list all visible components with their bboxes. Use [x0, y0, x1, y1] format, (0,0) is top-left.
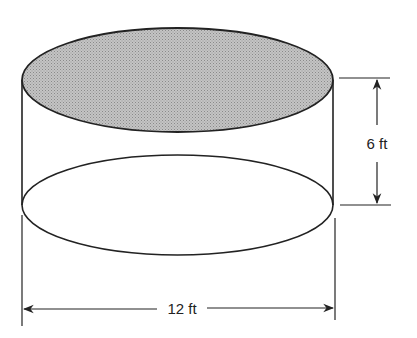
width-label: 12 ft: [167, 300, 197, 317]
height-label: 6 ft: [367, 135, 389, 152]
top-face-ellipse: [22, 28, 333, 132]
cylinder-diagram: 6 ft 12 ft: [0, 0, 417, 338]
bottom-ellipse: [22, 155, 333, 255]
